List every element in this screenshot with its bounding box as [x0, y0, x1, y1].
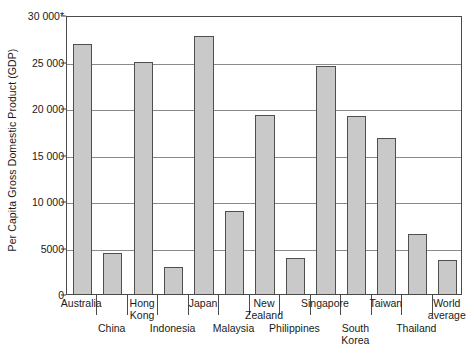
plot-area [66, 16, 462, 295]
x-label-line1: Hong [130, 298, 155, 310]
x-label-line1: South [341, 323, 369, 335]
bar-taiwan [377, 138, 396, 294]
x-label-hong-kong: HongKong [130, 298, 155, 321]
y-axis-title-text: Per Capita Gross Domestic Product (GDP) [6, 49, 18, 252]
x-label-line1: Malaysia [213, 323, 254, 335]
y-tick-label-15000: 15 000 [32, 150, 64, 162]
x-label-philippines: Philippines [269, 323, 320, 335]
y-tick-label-10000: 10 000 [32, 196, 64, 208]
y-axis-title: Per Capita Gross Domestic Product (GDP) [0, 0, 24, 300]
x-label-line1: China [98, 323, 125, 335]
x-label-line1: Australia [61, 298, 102, 310]
x-label-line1: Singapore [301, 298, 349, 310]
bar-new-zealand [255, 115, 274, 294]
x-label-line2: Zealand [245, 310, 283, 322]
bar-south-korea [347, 116, 366, 294]
x-label-new-zealand: NewZealand [245, 298, 283, 321]
bar-australia [73, 44, 92, 294]
x-label-line1: Taiwan [370, 298, 403, 310]
x-label-line1: Indonesia [150, 323, 196, 335]
bar-chart: Per Capita Gross Domestic Product (GDP) … [0, 0, 476, 358]
bars-layer [67, 17, 461, 294]
x-axis: AustraliaChinaHongKongIndonesiaJapanMala… [66, 295, 462, 358]
bar-singapore [316, 66, 335, 294]
x-label-line1: World [428, 298, 466, 310]
x-label-line2: Kong [130, 310, 155, 322]
bar-malaysia [225, 211, 244, 294]
bar-thailand [408, 234, 427, 294]
x-label-singapore: Singapore [301, 298, 349, 310]
x-label-south-korea: SouthKorea [341, 323, 369, 346]
bar-philippines [286, 258, 305, 294]
x-label-line1: Philippines [269, 323, 320, 335]
x-label-china: China [98, 323, 125, 335]
bar-china [103, 253, 122, 294]
x-label-japan: Japan [189, 298, 218, 310]
x-label-line2: Korea [341, 335, 369, 347]
x-label-world-average: Worldaverage [428, 298, 466, 321]
y-tick-label-25000: 25 000 [32, 57, 64, 69]
x-label-line2: average [428, 310, 466, 322]
bar-world-average [438, 260, 457, 294]
bar-indonesia [164, 267, 183, 294]
bar-hong-kong [134, 62, 153, 295]
x-axis-separator [127, 295, 128, 315]
y-tick-label-30000: 30 000* [28, 10, 64, 22]
y-tick-label-20000: 20 000 [32, 103, 64, 115]
x-label-australia: Australia [61, 298, 102, 310]
x-label-thailand: Thailand [396, 323, 436, 335]
x-label-line1: Japan [189, 298, 218, 310]
bar-japan [194, 36, 213, 294]
x-label-line1: Thailand [396, 323, 436, 335]
y-axis-tick-labels: 0500010 00015 00020 00025 00030 000* [22, 0, 66, 358]
x-axis-separator [157, 295, 158, 315]
x-label-line1: New [245, 298, 283, 310]
x-axis-separator [218, 295, 219, 315]
x-label-malaysia: Malaysia [213, 323, 254, 335]
x-label-taiwan: Taiwan [370, 298, 403, 310]
x-label-indonesia: Indonesia [150, 323, 196, 335]
